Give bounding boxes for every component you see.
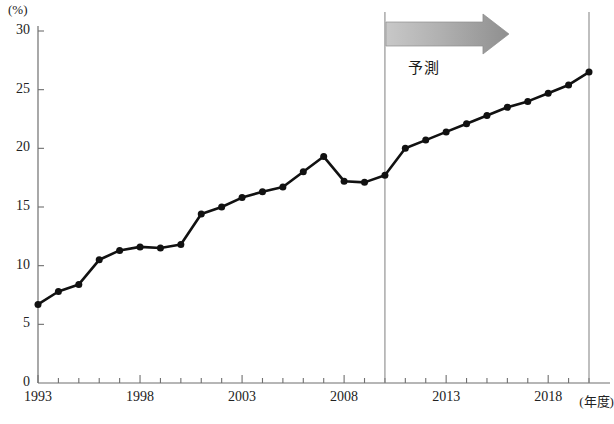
data-point-2003 [239, 194, 246, 201]
data-point-1999 [157, 245, 164, 252]
data-point-2014 [463, 120, 470, 127]
data-point-2019 [565, 81, 572, 88]
data-point-2020 [586, 69, 593, 76]
data-point-1994 [55, 288, 62, 295]
data-point-2010 [381, 172, 388, 179]
data-point-1993 [35, 301, 42, 308]
data-point-1998 [137, 243, 144, 250]
data-point-2009 [361, 179, 368, 186]
data-point-1996 [96, 256, 103, 263]
data-point-2001 [198, 211, 205, 218]
data-point-2015 [483, 112, 490, 119]
chart-container: (%) 051015202530 19931998200320082013201… [0, 0, 614, 424]
data-point-1995 [75, 281, 82, 288]
data-point-2000 [177, 241, 184, 248]
data-point-2017 [524, 98, 531, 105]
data-point-2011 [402, 145, 409, 152]
data-point-2005 [279, 184, 286, 191]
forecast-arrow-icon [386, 14, 509, 54]
data-point-2004 [259, 188, 266, 195]
data-point-1997 [116, 247, 123, 254]
data-point-2012 [422, 137, 429, 144]
chart-plot-area [0, 0, 614, 424]
data-point-2007 [320, 153, 327, 160]
data-point-2006 [300, 168, 307, 175]
data-point-2013 [443, 128, 450, 135]
data-point-2008 [341, 178, 348, 185]
data-point-2018 [545, 90, 552, 97]
data-point-2016 [504, 104, 511, 111]
data-point-2002 [218, 204, 225, 211]
